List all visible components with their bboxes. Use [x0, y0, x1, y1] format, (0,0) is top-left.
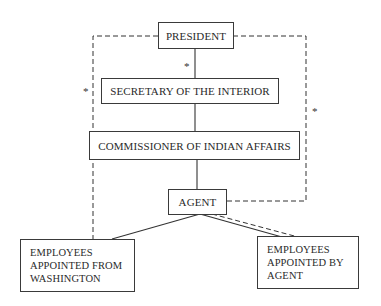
node-employees-appointed-by-agent: EMPLOYEES APPOINTED BY AGENT: [257, 236, 359, 289]
dashed-president-to-agent: [227, 36, 306, 201]
node-commissioner-of-indian-affairs: COMMISSIONER OF INDIAN AFFAIRS: [89, 131, 300, 160]
node-label-line: APPOINTED FROM: [30, 259, 122, 272]
node-label-line: AGENT: [267, 269, 303, 282]
edge-agent-employees-washington: [112, 214, 200, 239]
asterisk-president-secretary: *: [184, 60, 190, 72]
node-label: SECRETARY OF THE INTERIOR: [110, 85, 270, 97]
node-label: AGENT: [179, 196, 217, 208]
node-label-line: WASHINGTON: [30, 272, 101, 285]
asterisk-left-dashed: *: [83, 85, 89, 97]
node-secretary-of-interior: SECRETARY OF THE INTERIOR: [101, 78, 279, 104]
edge-agent-employees-agent: [200, 214, 282, 237]
node-label: COMMISSIONER OF INDIAN AFFAIRS: [98, 140, 291, 152]
node-agent: AGENT: [168, 189, 227, 215]
node-label-line: EMPLOYEES: [267, 243, 330, 256]
node-label-line: APPOINTED BY: [267, 256, 344, 269]
node-employees-appointed-from-washington: EMPLOYEES APPOINTED FROM WASHINGTON: [20, 239, 135, 292]
node-president: PRESIDENT: [158, 22, 234, 49]
dashed-agent-to-employees-agent: [212, 214, 298, 237]
node-label-line: EMPLOYEES: [30, 246, 93, 259]
asterisk-right-dashed: *: [312, 105, 318, 117]
node-label: PRESIDENT: [166, 30, 226, 42]
